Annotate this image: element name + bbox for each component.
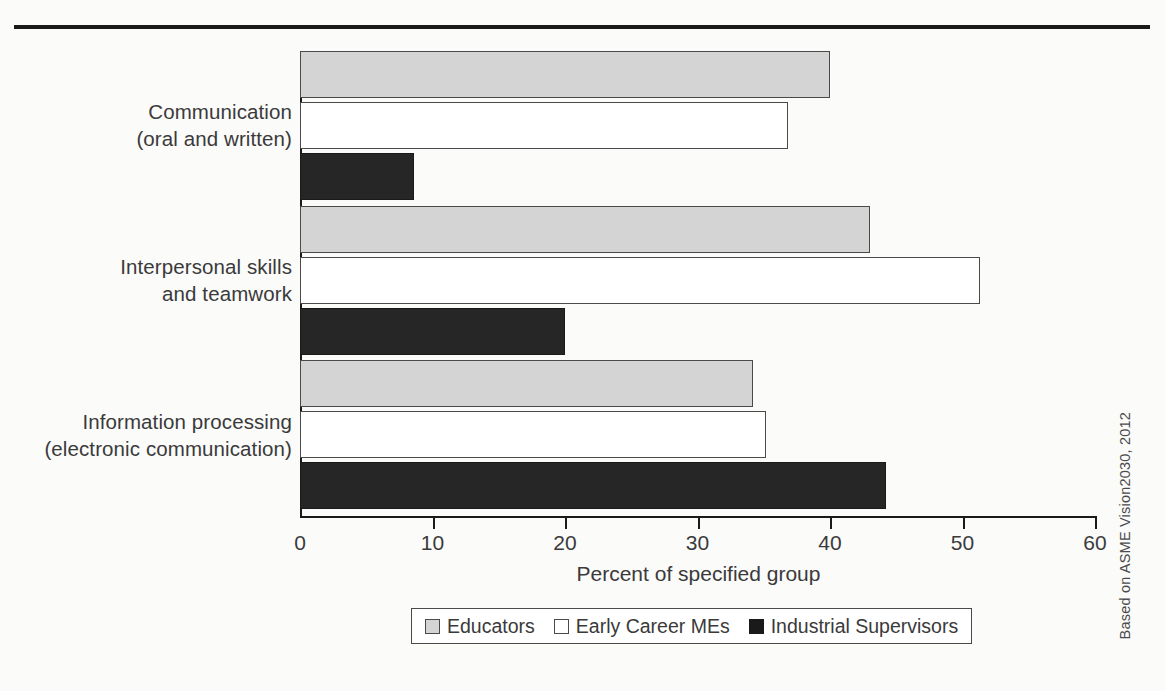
category-label-line: Communication: [2, 98, 292, 125]
bar-educators: [300, 206, 870, 253]
x-axis-tick: [565, 518, 567, 529]
category-label-line: (electronic communication): [2, 435, 292, 462]
x-axis-tick-label: 20: [553, 531, 576, 555]
bar-group: [300, 51, 1095, 200]
plot-area: [300, 52, 1095, 516]
legend-item-industrial-supervisors: Industrial Supervisors: [749, 615, 959, 638]
legend-item-early-career-mes: Early Career MEs: [554, 615, 730, 638]
legend-label: Educators: [447, 615, 535, 638]
legend-label: Industrial Supervisors: [771, 615, 959, 638]
x-axis-tick-label: 10: [421, 531, 444, 555]
x-axis-tick-label: 30: [686, 531, 709, 555]
x-axis-tick-label: 0: [294, 531, 306, 555]
category-label-line: (oral and written): [2, 125, 292, 152]
bar-group: [300, 360, 1095, 509]
bar-industrial-supervisors: [300, 153, 414, 200]
figure-container: Communication(oral and written)Interpers…: [0, 0, 1165, 691]
x-axis-tick: [1095, 518, 1097, 529]
category-label: Information processing(electronic commun…: [2, 408, 292, 462]
x-axis-tick-label: 40: [818, 531, 841, 555]
x-axis-tick: [698, 518, 700, 529]
category-label-line: and teamwork: [2, 280, 292, 307]
top-divider-rule: [14, 25, 1150, 29]
bar-early-career-mes: [300, 411, 766, 458]
x-axis-tick: [433, 518, 435, 529]
category-label-line: Interpersonal skills: [2, 253, 292, 280]
x-axis-tick: [830, 518, 832, 529]
legend-swatch-educators: [425, 619, 440, 634]
bar-group: [300, 206, 1095, 355]
bar-educators: [300, 360, 753, 407]
x-axis-tick-label: 50: [951, 531, 974, 555]
bar-industrial-supervisors: [300, 462, 886, 509]
bar-educators: [300, 51, 830, 98]
bar-early-career-mes: [300, 102, 788, 149]
legend-label: Early Career MEs: [576, 615, 730, 638]
legend-swatch-early-career-mes: [554, 619, 569, 634]
chart-legend: EducatorsEarly Career MEsIndustrial Supe…: [411, 608, 972, 644]
category-label: Communication(oral and written): [2, 98, 292, 152]
bar-early-career-mes: [300, 257, 980, 304]
x-axis-tick: [963, 518, 965, 529]
x-axis-title: Percent of specified group: [300, 562, 1097, 586]
legend-item-educators: Educators: [425, 615, 535, 638]
x-axis-tick-label: 60: [1083, 531, 1106, 555]
category-label-line: Information processing: [2, 408, 292, 435]
legend-swatch-industrial-supervisors: [749, 619, 764, 634]
bar-industrial-supervisors: [300, 308, 565, 355]
category-labels: Communication(oral and written)Interpers…: [0, 52, 292, 516]
category-label: Interpersonal skillsand teamwork: [2, 253, 292, 307]
source-credit: Based on ASME Vision2030, 2012: [1117, 412, 1133, 639]
